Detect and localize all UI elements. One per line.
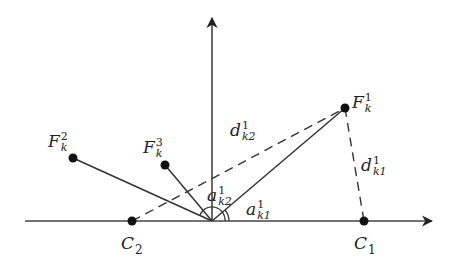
label-F2: F2k [48, 131, 68, 153]
point-F3 [161, 161, 170, 170]
diagram-canvas [0, 0, 455, 269]
point-C2 [128, 217, 137, 226]
ray-to-F3 [165, 165, 212, 221]
label-F3: F3k [143, 137, 163, 159]
label-F1: F1k [352, 92, 372, 114]
point-F2 [69, 154, 78, 163]
label-d-k2: d1k2 [230, 120, 256, 142]
label-a-k1: a1k1 [246, 199, 271, 221]
label-C2: C2 [121, 235, 143, 256]
label-a-k2: a1k2 [207, 185, 232, 207]
point-C1 [360, 217, 369, 226]
label-d-k1: d1k1 [361, 155, 387, 177]
label-C1: C1 [354, 235, 376, 256]
point-F1 [341, 104, 350, 113]
